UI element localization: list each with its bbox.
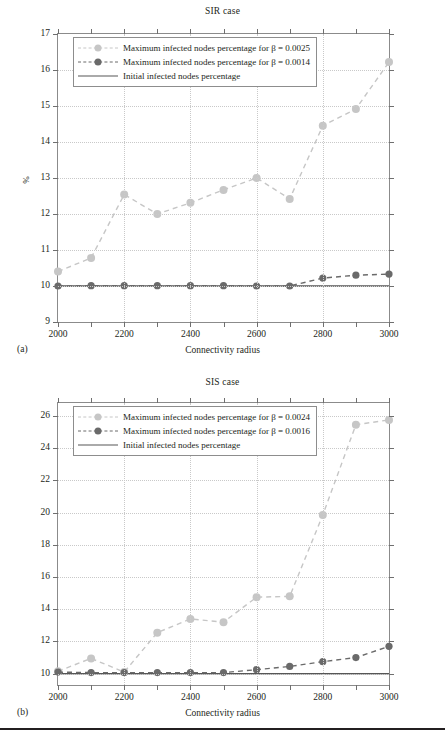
legend-row: Maximum infected nodes percentage for β … (78, 55, 310, 69)
legend-label: Maximum infected nodes percentage for β … (123, 56, 310, 68)
data-point-marker (286, 592, 294, 600)
y-axis-tick-right (389, 641, 394, 642)
y-axis-tick-label: 10 (41, 669, 51, 679)
x-axis-tick-label: 2600 (247, 693, 266, 703)
y-axis-tick (53, 416, 58, 417)
x-axis-tick (224, 322, 225, 327)
panel-caption-b: (b) (17, 707, 28, 717)
data-point-marker (385, 271, 392, 278)
y-axis-tick-label: 10 (41, 281, 51, 291)
legend-label: Maximum infected nodes percentage for β … (123, 425, 310, 437)
data-point-marker (319, 274, 326, 281)
legend-key-solid-icon (78, 69, 118, 83)
x-axis-title-a: Connectivity radius (0, 345, 445, 355)
x-axis-tick (58, 322, 59, 327)
footer-rule (0, 728, 445, 730)
data-point-marker (253, 666, 260, 673)
y-axis-tick-label: 16 (41, 65, 51, 75)
y-axis-tick (53, 178, 58, 179)
y-axis-tick (53, 577, 58, 578)
data-point-marker (253, 174, 261, 182)
data-point-marker (319, 511, 327, 519)
y-axis-tick-label: 12 (41, 209, 51, 219)
y-axis-tick-label: 18 (41, 540, 51, 550)
data-point-marker (153, 629, 161, 637)
x-axis-tick-label: 2400 (181, 330, 200, 340)
legend-key-dashed-light-icon (78, 410, 118, 424)
y-axis-tick-right (389, 286, 394, 287)
x-axis-tick (58, 685, 59, 690)
x-axis-tick-top (356, 398, 357, 403)
y-axis-tick-label: 26 (41, 411, 51, 421)
y-axis-tick (53, 142, 58, 143)
x-axis-title-b: Connectivity radius (0, 708, 445, 718)
y-axis-tick-right (389, 577, 394, 578)
y-axis-tick (53, 545, 58, 546)
chart-title-a: SIR case (0, 6, 445, 16)
x-axis-tick-label: 2200 (115, 330, 134, 340)
data-point-marker (220, 282, 227, 289)
x-axis-tick-top (224, 398, 225, 403)
data-point-marker (154, 669, 161, 676)
data-point-marker (253, 593, 261, 601)
data-point-marker (253, 282, 260, 289)
legend-b: Maximum infected nodes percentage for β … (73, 406, 317, 456)
y-axis-tick-label: 14 (41, 605, 51, 615)
x-axis-tick-top (91, 29, 92, 34)
legend-row: Maximum infected nodes percentage for β … (78, 41, 310, 55)
y-axis-tick-label: 12 (41, 637, 51, 647)
y-axis-tick-right (389, 178, 394, 179)
data-point-marker (385, 416, 393, 424)
y-axis-tick-right (389, 106, 394, 107)
x-axis-tick (323, 322, 324, 327)
data-point-marker (220, 618, 228, 626)
y-axis-tick-label: 22 (41, 476, 51, 486)
data-point-marker (54, 268, 62, 276)
legend-a: Maximum infected nodes percentage for β … (73, 37, 317, 87)
y-axis-tick-label: 16 (41, 572, 51, 582)
x-axis-tick-top (290, 29, 291, 34)
legend-key-dashed-light-icon (78, 41, 118, 55)
figure-page: SIR case 9101112131415161720002200240026… (0, 0, 445, 743)
y-axis-tick (53, 641, 58, 642)
data-point-marker (187, 282, 194, 289)
x-axis-tick (190, 322, 191, 327)
y-axis-tick (53, 609, 58, 610)
y-axis-tick (53, 480, 58, 481)
y-axis-tick-label: 11 (41, 245, 50, 255)
y-axis-tick (53, 70, 58, 71)
data-point-marker (220, 669, 227, 676)
data-point-marker (220, 186, 228, 194)
x-axis-tick-top (356, 29, 357, 34)
y-axis-tick-label: 13 (41, 173, 51, 183)
y-axis-tick-label: 17 (41, 29, 51, 39)
x-axis-tick (124, 322, 125, 327)
series-line (58, 646, 389, 672)
y-axis-tick-right (389, 448, 394, 449)
data-point-marker (385, 58, 393, 66)
y-axis-title-a: % (21, 176, 31, 184)
legend-key-solid-icon (78, 438, 118, 452)
figure-panel-a: SIR case 9101112131415161720002200240026… (0, 0, 445, 372)
y-axis-tick (53, 286, 58, 287)
y-axis-tick (53, 214, 58, 215)
y-axis-tick-label: 20 (41, 508, 51, 518)
x-axis-tick-top (323, 29, 324, 34)
x-axis-tick (91, 685, 92, 690)
y-axis-tick-right (389, 70, 394, 71)
figure-panel-b: SIS case 1012141618202224262000220024002… (0, 371, 445, 743)
x-axis-tick-top (124, 398, 125, 403)
data-point-marker (319, 122, 327, 130)
data-point-marker (187, 669, 194, 676)
y-axis-tick (53, 250, 58, 251)
x-axis-tick-top (257, 29, 258, 34)
x-axis-tick (224, 685, 225, 690)
y-axis-tick-right (389, 416, 394, 417)
data-point-marker (352, 421, 360, 429)
x-axis-tick-top (190, 29, 191, 34)
data-point-marker (352, 654, 359, 661)
x-axis-tick-top (190, 398, 191, 403)
x-axis-tick-label: 2800 (313, 693, 332, 703)
x-axis-tick (124, 685, 125, 690)
y-axis-tick-label: 14 (41, 137, 51, 147)
